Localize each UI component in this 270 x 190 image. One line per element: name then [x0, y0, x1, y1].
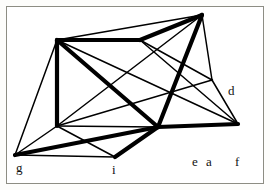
graph-edge-b-d	[140, 40, 212, 80]
label-e: e	[192, 155, 198, 168]
graph-vertex-g	[14, 154, 16, 156]
graph-vertex-e	[237, 123, 239, 125]
label-a: a	[206, 155, 212, 168]
graph-edge-c-d	[202, 15, 212, 80]
graph-vertex-a	[56, 39, 58, 41]
graph-vertex-h	[56, 125, 58, 127]
edge-layer	[15, 15, 238, 157]
graph-edge-h-f	[57, 126, 158, 127]
figure-canvas: dgieaf	[0, 0, 270, 190]
graph-edge-f-e	[158, 124, 238, 127]
label-d: d	[228, 84, 235, 97]
graph-edge-d-h	[57, 80, 212, 126]
graph-edge-a-g	[15, 40, 57, 155]
label-f: f	[235, 155, 239, 168]
graph-edge-a-e	[57, 40, 238, 124]
label-i: i	[112, 163, 116, 176]
graph-vertex-i	[114, 156, 116, 158]
graph-edge-g-i	[15, 155, 115, 157]
graph-vertex-c	[201, 14, 203, 16]
graph-edge-c-a	[57, 15, 202, 40]
graph-vertex-f	[157, 126, 159, 128]
label-g: g	[16, 161, 23, 174]
graph-vertex-d	[211, 79, 213, 81]
graph-vertex-b	[139, 39, 141, 41]
